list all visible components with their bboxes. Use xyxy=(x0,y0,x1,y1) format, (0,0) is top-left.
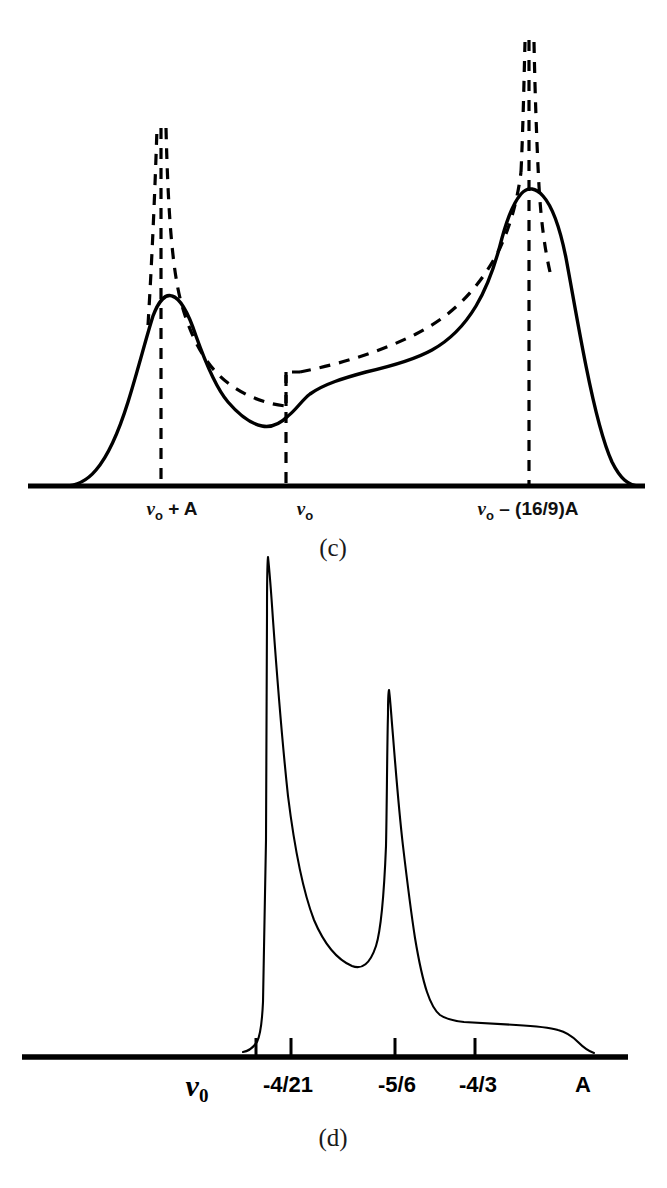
figure-background xyxy=(0,0,667,1188)
panel-d-axis-end-label: A xyxy=(575,1072,591,1097)
figure-canvas: vo + A vo vo – (16/9)A (c) xyxy=(0,0,667,1188)
panel-d-caption: (d) xyxy=(318,1124,347,1152)
figure-root: vo + A vo vo – (16/9)A (c) xyxy=(0,0,667,1188)
panel-d-ticklabel-2: -4/3 xyxy=(459,1072,497,1097)
panel-d-ticklabel-0: -4/21 xyxy=(263,1072,313,1097)
panel-c-caption: (c) xyxy=(319,534,347,562)
panel-d-ticklabel-1: -5/6 xyxy=(378,1072,416,1097)
